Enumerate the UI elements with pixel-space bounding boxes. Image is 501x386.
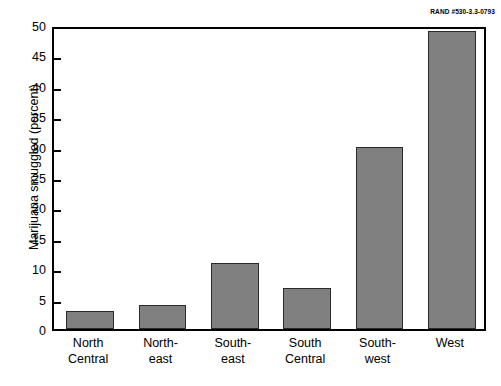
x-tick-label: North- east (143, 336, 178, 367)
y-tick-label: 30 (32, 142, 46, 156)
y-tick-mark (54, 89, 61, 91)
y-axis-tick-labels: 05101520253035404550 (20, 27, 46, 331)
y-tick-mark (54, 119, 61, 121)
y-tick-label: 20 (32, 202, 46, 216)
x-tick-label: North Central (68, 336, 108, 367)
y-tick-mark (54, 150, 61, 152)
y-tick-mark (54, 210, 61, 212)
bar (428, 31, 476, 329)
plot-area (52, 27, 486, 331)
bar (66, 311, 114, 329)
y-tick-mark (54, 302, 61, 304)
x-tick-label: South Central (285, 336, 325, 367)
y-tick-label: 15 (32, 233, 46, 247)
x-tick-label: West (436, 336, 464, 352)
bar (139, 305, 187, 329)
y-tick-mark (54, 241, 61, 243)
y-tick-mark (54, 180, 61, 182)
y-tick-label: 45 (32, 50, 46, 64)
y-tick-label: 40 (32, 81, 46, 95)
bar (283, 288, 331, 329)
y-tick-mark (54, 58, 61, 60)
y-tick-label: 25 (32, 172, 46, 186)
plot-inner (54, 29, 484, 329)
y-tick-mark (54, 271, 61, 273)
y-tick-label: 35 (32, 111, 46, 125)
y-tick-label: 5 (39, 294, 46, 308)
bar (211, 263, 259, 329)
y-tick-label: 0 (39, 324, 46, 338)
source-id-label: RAND #530-3.3-0793 (430, 8, 495, 15)
x-tick-label: South- east (214, 336, 251, 367)
bar (356, 147, 404, 329)
x-tick-label: South- west (359, 336, 396, 367)
y-tick-label: 50 (32, 20, 46, 34)
x-axis-tick-labels: North CentralNorth- eastSouth- eastSouth… (52, 336, 486, 382)
y-tick-label: 10 (32, 263, 46, 277)
bar-chart-figure: RAND #530-3.3-0793 Marijuana smuggled (p… (0, 0, 501, 386)
